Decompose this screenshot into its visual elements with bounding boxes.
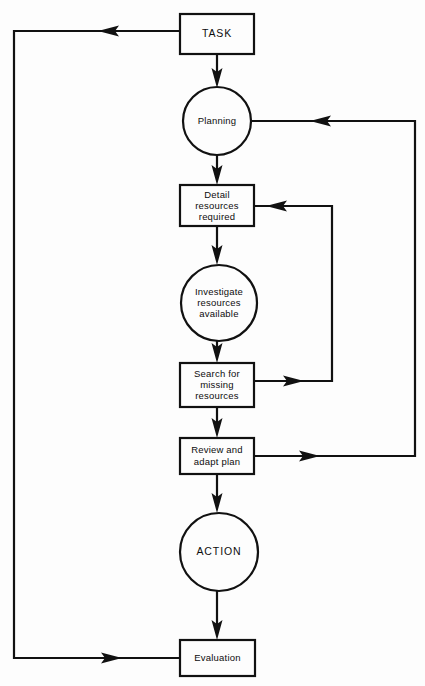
flowchart-canvas: TASK Planning Detail resources required … [0, 0, 425, 686]
node-review-and-adapt-plan[interactable]: Review and adapt plan [180, 438, 254, 474]
edge-action-to-evaluation [212, 591, 223, 640]
flowchart-page: TASK Planning Detail resources required … [0, 0, 425, 686]
node-detail-line-2: resources [195, 200, 239, 211]
node-detail-line-1: Detail [204, 189, 230, 200]
edge-search-to-detail [254, 201, 332, 387]
node-search-line-2: missing [200, 379, 234, 390]
edge-evaluation-to-task [14, 26, 180, 664]
node-evaluation-label: Evaluation [194, 652, 240, 663]
node-search-for-missing-resources[interactable]: Search for missing resources [180, 363, 254, 407]
node-detail-resources-required[interactable]: Detail resources required [180, 185, 254, 226]
node-planning[interactable]: Planning [183, 87, 251, 155]
node-action-label: ACTION [196, 545, 241, 557]
edge-task-to-planning [212, 54, 223, 88]
node-task[interactable]: TASK [180, 14, 254, 54]
node-investigate-line-1: Investigate [195, 286, 243, 297]
node-planning-label: Planning [198, 115, 237, 126]
node-search-line-1: Search for [194, 368, 240, 379]
node-investigate-resources-available[interactable]: Investigate resources available [181, 265, 257, 341]
node-review-line-1: Review and [191, 444, 243, 455]
edge-planning-to-detail [212, 155, 223, 185]
node-action[interactable]: ACTION [180, 513, 258, 591]
edge-search-to-review [212, 407, 223, 438]
edge-investigate-to-search [212, 341, 223, 363]
edge-review-to-action [212, 474, 223, 513]
node-investigate-line-2: resources [197, 297, 241, 308]
node-detail-line-3: required [199, 211, 235, 222]
node-evaluation[interactable]: Evaluation [180, 640, 255, 676]
node-review-line-2: adapt plan [194, 456, 240, 467]
edge-detail-to-investigate [212, 226, 223, 265]
node-investigate-line-3: available [199, 308, 238, 319]
node-search-line-3: resources [195, 390, 239, 401]
node-task-label: TASK [202, 27, 232, 39]
